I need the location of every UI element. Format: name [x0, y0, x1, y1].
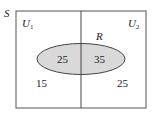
venn-diagram: S U1 U2 R 25 35 15 25: [0, 0, 152, 115]
value-U1-not-R: 15: [36, 77, 48, 89]
value-U2-and-R: 35: [94, 53, 106, 65]
sample-space-label: S: [4, 7, 10, 19]
value-U2-not-R: 25: [117, 77, 129, 89]
ellipse-R-label: R: [95, 30, 103, 42]
value-U1-and-R: 25: [57, 53, 69, 65]
